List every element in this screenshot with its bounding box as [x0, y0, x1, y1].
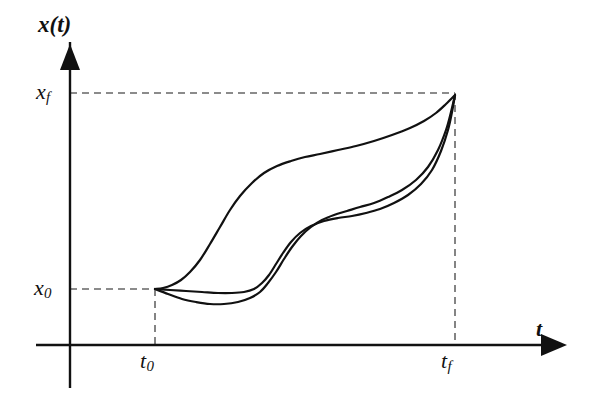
x-final-subscript: f	[46, 89, 50, 105]
x-initial-subscript: 0	[44, 285, 52, 301]
axes-group	[36, 42, 567, 388]
t-final-tick-label: tf	[441, 348, 452, 375]
trajectory-figure: x(t) t xf x0 t0 tf	[0, 0, 614, 397]
x-initial-symbol: x	[34, 275, 44, 300]
curve-trajectory-2	[155, 95, 455, 293]
x-initial-tick-label: x0	[34, 275, 52, 302]
x-final-symbol: x	[36, 79, 46, 104]
curve-trajectory-1	[155, 95, 455, 289]
plot-canvas	[0, 0, 614, 397]
t-initial-tick-label: t0	[140, 348, 154, 375]
x-axis-arrowhead-icon	[541, 334, 567, 356]
y-axis-arrowhead-icon	[60, 44, 80, 70]
x-axis-label: t	[536, 316, 542, 342]
curve-trajectory-3	[155, 95, 455, 304]
trajectory-curves	[155, 95, 455, 304]
y-axis-label: x(t)	[38, 12, 71, 38]
dashed-guide-lines	[70, 93, 455, 345]
x-final-tick-label: xf	[36, 79, 50, 106]
t-final-subscript: f	[447, 358, 451, 374]
t-initial-subscript: 0	[146, 358, 154, 374]
